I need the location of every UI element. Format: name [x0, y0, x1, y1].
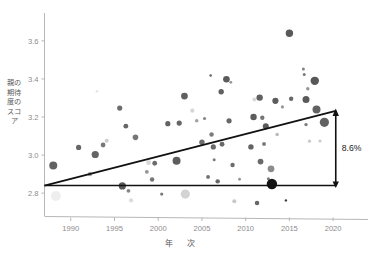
data-point — [203, 117, 206, 120]
x-tick-label: 2015 — [281, 224, 298, 233]
data-point — [262, 142, 266, 146]
data-point — [146, 160, 151, 165]
data-point — [211, 144, 216, 149]
data-point — [308, 140, 311, 143]
data-point — [206, 175, 210, 179]
data-point — [230, 163, 234, 167]
data-point — [76, 145, 81, 150]
data-point — [213, 158, 216, 161]
data-point — [268, 165, 275, 172]
x-tick-label: 1990 — [62, 224, 79, 233]
data-point — [303, 96, 310, 103]
data-point — [311, 77, 319, 85]
data-point — [306, 87, 309, 90]
data-point — [51, 191, 61, 201]
data-point — [304, 123, 307, 126]
x-tick-label: 2000 — [150, 224, 167, 233]
data-point — [195, 119, 199, 123]
data-points — [49, 30, 329, 206]
x-tick-label: 2005 — [193, 224, 210, 233]
data-point — [96, 90, 99, 93]
data-point — [133, 135, 139, 141]
data-point — [127, 189, 131, 193]
data-point — [177, 120, 182, 125]
x-axis-ticks: 1990199520002005201020152020 — [62, 218, 341, 234]
y-tick-label: 3.2 — [28, 113, 39, 122]
data-point — [181, 190, 190, 199]
y-tick-label: 3.0 — [28, 151, 39, 160]
data-point — [220, 142, 225, 147]
data-point — [281, 105, 284, 108]
data-point — [152, 161, 157, 166]
x-tick-label: 2020 — [325, 224, 342, 233]
data-point — [165, 121, 170, 126]
y-tick-label: 3.6 — [28, 37, 39, 46]
data-point — [129, 198, 133, 202]
data-point — [160, 193, 163, 196]
data-point — [320, 118, 329, 127]
data-point — [181, 93, 188, 100]
annotation-arrow-head-bottom — [333, 182, 339, 189]
data-point — [275, 133, 279, 137]
data-point — [238, 178, 241, 181]
x-tick-label: 2010 — [237, 224, 254, 233]
data-point — [190, 109, 194, 113]
trend-line — [45, 111, 336, 186]
data-point — [223, 76, 230, 83]
data-point — [260, 116, 264, 120]
data-point — [272, 98, 278, 104]
data-point — [248, 144, 253, 149]
data-point — [229, 81, 232, 84]
percent-annotation: 8.6% — [333, 108, 362, 188]
data-point — [105, 139, 109, 143]
data-point — [150, 177, 154, 181]
data-point — [232, 199, 236, 203]
data-point — [209, 132, 213, 136]
data-point — [252, 97, 256, 101]
data-point — [145, 170, 149, 174]
y-tick-label: 2.8 — [28, 189, 39, 198]
data-point — [226, 118, 231, 123]
data-point — [285, 199, 287, 201]
data-point — [286, 30, 293, 37]
trend-lines — [45, 111, 336, 186]
data-point — [303, 73, 306, 76]
data-point — [101, 143, 106, 148]
data-point — [318, 139, 321, 142]
y-tick-label: 3.4 — [28, 75, 39, 84]
data-point — [267, 179, 277, 189]
scatter-chart: 親の期待度のスコア 年 次 2.83.03.23.43.6 1990199520… — [0, 0, 371, 268]
data-point — [49, 162, 57, 170]
y-axis-ticks: 2.83.03.23.43.6 — [28, 37, 45, 198]
data-point — [123, 124, 128, 129]
data-point — [218, 89, 223, 94]
annotation-label: 8.6% — [342, 143, 362, 153]
data-point — [302, 68, 305, 71]
data-point — [258, 159, 264, 165]
x-axis-spine — [45, 217, 369, 220]
data-point — [209, 74, 212, 77]
data-point — [250, 114, 256, 120]
data-point — [313, 105, 321, 113]
plot-area: 2.83.03.23.43.6 199019952000200520102015… — [0, 0, 371, 268]
data-point — [117, 105, 122, 110]
data-point — [256, 94, 262, 100]
x-tick-label: 1995 — [106, 224, 123, 233]
data-point — [289, 97, 293, 101]
data-point — [215, 179, 219, 183]
data-point — [255, 201, 260, 206]
data-point — [173, 157, 181, 165]
data-point — [92, 151, 99, 158]
